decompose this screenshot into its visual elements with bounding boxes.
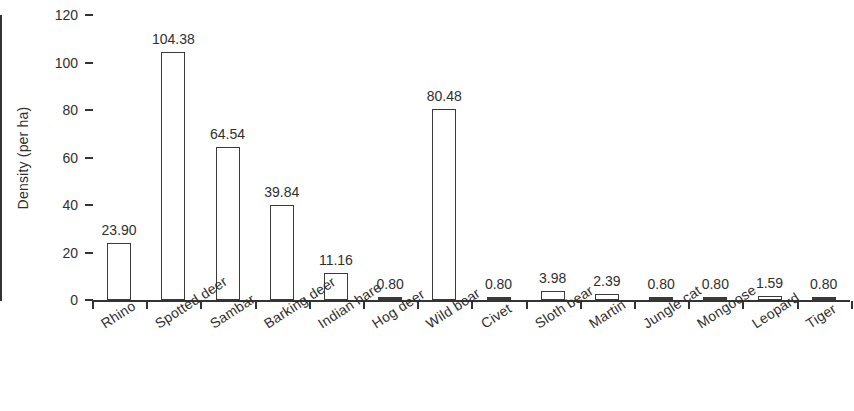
bar-value-label: 64.54 — [210, 126, 245, 142]
y-axis-tick-label: 80 — [36, 102, 78, 118]
y-axis-tick — [85, 252, 93, 254]
y-axis-tick — [85, 62, 93, 64]
bar — [432, 109, 456, 300]
x-axis-tick — [146, 301, 148, 309]
bar-value-label: 0.80 — [702, 276, 729, 292]
y-axis-tick — [85, 204, 93, 206]
bar — [270, 205, 294, 300]
bar — [161, 52, 185, 300]
x-axis-tick — [851, 301, 853, 309]
y-axis-tick-label: 60 — [36, 150, 78, 166]
x-axis-category-label: Tiger — [803, 300, 839, 331]
bar-value-label: 3.98 — [539, 270, 566, 286]
x-axis-category-label: Sloth bear — [532, 282, 596, 331]
bar — [107, 243, 131, 300]
bar — [487, 297, 511, 301]
y-axis-tick — [85, 14, 93, 16]
bar-value-label: 11.16 — [319, 252, 353, 268]
y-axis-tick-label: 20 — [36, 245, 78, 261]
bar-value-label: 2.39 — [593, 273, 620, 289]
y-axis-tick-label: 40 — [36, 197, 78, 213]
bar-value-label: 104.38 — [152, 31, 195, 47]
bar-chart: Density (per ha) 020406080100120 23.9010… — [0, 0, 854, 411]
bar-value-label: 0.80 — [810, 276, 837, 292]
y-axis-tick — [85, 109, 93, 111]
x-axis-tick — [634, 301, 636, 309]
bar-value-label: 23.90 — [102, 222, 137, 238]
x-axis-tick — [526, 301, 528, 309]
y-axis-line — [0, 15, 2, 301]
bar-value-label: 1.59 — [756, 275, 783, 291]
bar-value-label: 80.48 — [427, 88, 462, 104]
bar-value-label: 39.84 — [264, 184, 299, 200]
bar-value-label: 0.80 — [485, 276, 512, 292]
y-axis-title: Density (per ha) — [15, 58, 31, 258]
y-axis-tick-label: 100 — [36, 55, 78, 71]
y-axis-tick-label: 0 — [36, 292, 78, 308]
x-axis-category-label: Civet — [478, 300, 514, 331]
y-axis-tick — [85, 157, 93, 159]
x-axis-category-label: Rhino — [98, 298, 138, 332]
bar — [812, 297, 836, 301]
y-axis-tick-label: 120 — [36, 7, 78, 23]
bar-value-label: 0.80 — [647, 276, 674, 292]
x-axis-tick — [92, 301, 94, 309]
